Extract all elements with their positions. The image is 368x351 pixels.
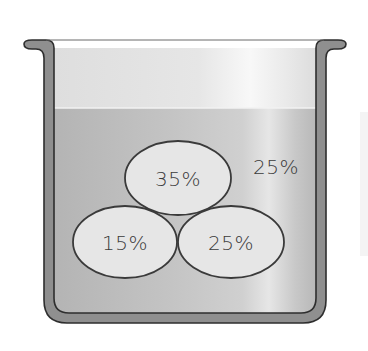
beaker-diagram: 35% 15% 25% 25% [0,0,368,351]
particle-bottom-right-label: 25% [208,231,254,255]
empty-space [54,44,316,108]
solution-label: 25% [253,155,299,179]
particle-bottom-left-label: 15% [102,231,148,255]
particle-top-label: 35% [155,167,201,191]
particle-bottom-right: 25% [178,206,284,278]
particle-top: 35% [125,141,231,215]
particle-bottom-left: 15% [73,206,177,278]
